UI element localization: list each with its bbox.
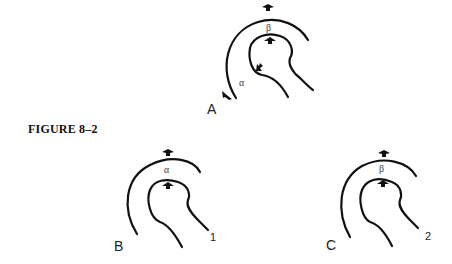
inner-head-contour bbox=[360, 179, 418, 246]
inner-head-contour bbox=[250, 35, 314, 98]
alpha-label: α bbox=[239, 77, 245, 88]
arrow-inner-top-icon bbox=[264, 37, 276, 44]
panel-b-label: B bbox=[114, 238, 123, 254]
panel-c-label: C bbox=[326, 237, 336, 253]
arrow-top-icon bbox=[378, 150, 390, 157]
beta-label: β bbox=[379, 163, 384, 174]
panel-b: α 1 B bbox=[114, 149, 216, 254]
arrow-inner-top-icon bbox=[162, 182, 174, 189]
arrow-top-icon bbox=[262, 4, 274, 11]
panel-a-label: A bbox=[207, 101, 217, 117]
figure-number-1: 1 bbox=[210, 231, 216, 243]
figure-diagram: α β A α 1 B β 2 C bbox=[0, 0, 452, 264]
alpha-label: α bbox=[164, 164, 170, 175]
panel-c: β 2 C bbox=[326, 150, 431, 253]
beta-label: β bbox=[266, 22, 271, 33]
panel-a: α β A bbox=[207, 4, 313, 117]
arrow-top-icon bbox=[162, 149, 174, 156]
arrow-neck-icon bbox=[256, 63, 263, 71]
inner-head-contour bbox=[148, 180, 208, 247]
arrow-lower-icon bbox=[222, 91, 232, 100]
figure-number-2: 2 bbox=[425, 230, 431, 242]
